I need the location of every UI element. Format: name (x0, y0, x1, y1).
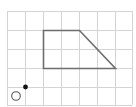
filled-point (23, 85, 28, 90)
grid-diagram (0, 0, 136, 107)
